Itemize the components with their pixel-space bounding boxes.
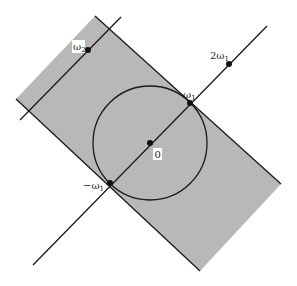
lattice-diagram: 0 ω1 −ω1 2ω1 ω2	[0, 0, 297, 286]
point-neg-omega1	[107, 180, 113, 186]
label-neg-omega1: −ω1	[83, 180, 104, 193]
label-origin: 0	[155, 149, 161, 160]
point-omega2	[85, 47, 91, 53]
point-origin	[147, 140, 153, 146]
label-two-omega1: 2ω1	[210, 50, 229, 63]
